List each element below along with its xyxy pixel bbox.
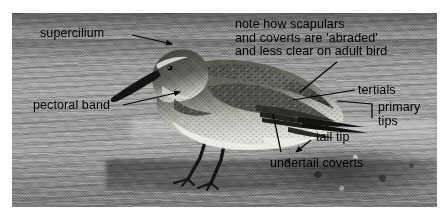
annotation-overlay: supercilium note how scapulars and cover… [0,0,445,221]
figure-root: supercilium note how scapulars and cover… [0,0,445,221]
leader-tail-tip [296,140,311,152]
leader-note [300,62,337,92]
annotation-primary-tips: primary tips [378,101,420,128]
annotation-tertials: tertials [358,84,396,98]
leader-supercilium [132,35,172,44]
annotation-note-scapulars: note how scapulars and coverts are 'abra… [235,18,387,59]
annotation-undertail-coverts: undertail coverts [270,157,363,171]
annotation-tail-tip: tail tip [316,131,349,145]
leader-pectoral-band [123,92,180,105]
annotation-supercilium: supercilium [40,27,104,41]
leader-primary-tips [337,101,372,118]
leader-tertials [293,90,355,100]
leader-undertail-coverts [273,114,281,152]
annotation-pectoral-band: pectoral band [33,99,110,113]
